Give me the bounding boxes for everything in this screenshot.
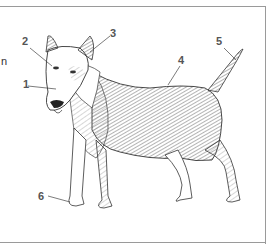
body-shape xyxy=(92,72,222,161)
front-right-leg xyxy=(96,140,112,208)
callout-label-1: 1 xyxy=(23,79,29,90)
hind-right-leg xyxy=(205,140,240,202)
callout-label-5: 5 xyxy=(216,36,222,47)
tail-shape xyxy=(208,49,243,92)
callout-label-4: 4 xyxy=(178,55,184,66)
callout-label-3: 3 xyxy=(110,28,116,39)
leader-line-4 xyxy=(168,66,180,85)
callout-label-2: 2 xyxy=(22,36,28,47)
callout-label-6: 6 xyxy=(38,191,44,202)
leader-line-6 xyxy=(48,196,70,202)
left-eye xyxy=(53,67,59,70)
bull-terrier-illustration xyxy=(0,0,276,247)
leader-line-5 xyxy=(224,48,236,60)
right-eye xyxy=(70,71,76,74)
front-left-leg xyxy=(69,128,86,206)
